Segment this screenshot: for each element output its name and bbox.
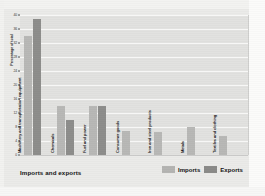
bar-exports (98, 106, 106, 155)
legend-swatch (162, 166, 175, 173)
bar-imports (122, 131, 130, 156)
bar-group: Iron and steel products (150, 15, 183, 155)
chart-figure: 0481216202428323640 Percentage of total … (0, 0, 265, 196)
legend-item: Exports (204, 166, 243, 173)
bar-imports (89, 106, 97, 155)
legend-item: Imports (162, 166, 200, 173)
bar-series-container: Machinery and transportation equipmentCh… (20, 15, 248, 155)
y-axis-tick-label: 40 (13, 13, 17, 17)
bar-group: Metals (183, 15, 216, 155)
bar-exports (66, 120, 74, 155)
category-label: Consumer goods (116, 121, 120, 153)
legend-swatch (204, 166, 217, 173)
category-label: Fuel and power (83, 124, 87, 153)
chart-footer: Imports and exports ImportsExports (0, 155, 265, 187)
bar-imports (154, 132, 162, 155)
y-axis-title: Percentage of total (10, 20, 14, 80)
legend-label: Imports (178, 167, 200, 173)
page-margin-bottom (0, 187, 265, 196)
plot-area: Machinery and transportation equipmentCh… (20, 15, 249, 155)
category-label: Chemicals (50, 133, 54, 153)
chart-legend: ImportsExports (162, 166, 243, 173)
bar-group: Chemicals (53, 15, 86, 155)
bar-group: Fuel and power (85, 15, 118, 155)
category-label: Machinery and transportation equipment (18, 77, 22, 153)
bar-imports (24, 36, 32, 155)
category-label: Textiles and clothing (213, 115, 217, 153)
bar-imports (187, 127, 195, 155)
bar-imports (219, 136, 227, 155)
bar-imports (57, 106, 65, 155)
bar-group: Textiles and clothing (215, 15, 248, 155)
bar-exports (33, 19, 41, 156)
chart-title: Imports and exports (20, 169, 81, 176)
page-margin-top (0, 0, 265, 9)
bar-group: Consumer goods (118, 15, 151, 155)
category-label: Metals (181, 141, 185, 153)
bar-group: Machinery and transportation equipment (20, 15, 53, 155)
legend-label: Exports (220, 167, 243, 173)
category-label: Iron and steel products (148, 110, 152, 153)
